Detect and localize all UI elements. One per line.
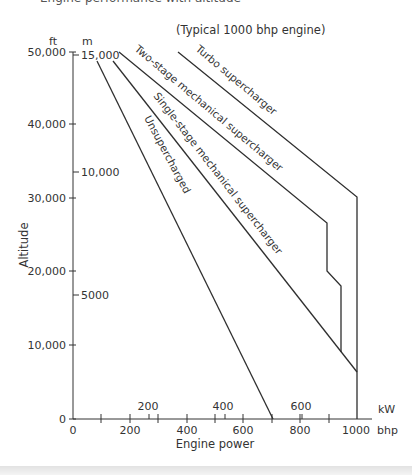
line-single-stage xyxy=(113,61,357,372)
y-ticks-m: 15,000 10,000 5000 xyxy=(81,49,120,302)
y-tick-30000: 30,000 xyxy=(28,192,67,205)
altitude-power-chart: (Typical 1000 bhp engine) ft m 50,000 40… xyxy=(0,0,412,475)
y-axis-title: Altitude xyxy=(17,223,31,268)
m-tick-15000: 15,000 xyxy=(81,49,120,62)
x-ticks-kw: 200 400 600 xyxy=(138,400,312,413)
m-tick-5000: 5000 xyxy=(81,289,109,302)
x-tick-0: 0 xyxy=(70,424,77,437)
x-unit-bhp: bhp xyxy=(377,424,398,437)
kw-tick-600: 600 xyxy=(291,400,312,413)
y-tick-50000: 50,000 xyxy=(28,46,67,59)
y-axis xyxy=(69,52,79,419)
y-tick-40000: 40,000 xyxy=(28,118,67,131)
kw-tick-400: 400 xyxy=(213,400,234,413)
x-tick-1000: 1000 xyxy=(342,424,370,437)
x-tick-400: 400 xyxy=(177,424,198,437)
x-ticks-bhp: 0 200 400 600 800 1000 xyxy=(70,424,371,437)
x-unit-kw: kW xyxy=(378,403,395,416)
x-axis-title: Engine power xyxy=(176,437,255,451)
line-unsupercharged xyxy=(97,61,273,419)
x-tick-600: 600 xyxy=(233,424,254,437)
x-axis xyxy=(73,414,372,423)
y-tick-10000: 10,000 xyxy=(28,339,67,352)
chart-subtitle: (Typical 1000 bhp engine) xyxy=(176,23,325,37)
y-ticks-ft: 50,000 40,000 30,000 20,000 10,000 0 xyxy=(28,46,67,426)
y-tick-0: 0 xyxy=(59,413,66,426)
x-tick-800: 800 xyxy=(290,424,311,437)
kw-tick-200: 200 xyxy=(138,400,159,413)
bottom-divider xyxy=(0,466,412,475)
m-tick-10000: 10,000 xyxy=(81,166,120,179)
y-tick-20000: 20,000 xyxy=(28,265,67,278)
x-tick-200: 200 xyxy=(120,424,141,437)
y-unit-m: m xyxy=(82,35,93,48)
